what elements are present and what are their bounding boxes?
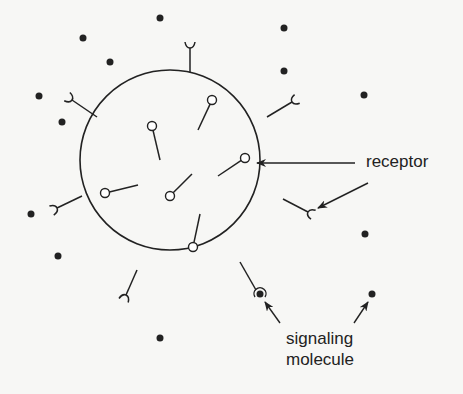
surface-receptor xyxy=(119,270,137,303)
arrow-signaling-bound-icon xyxy=(265,302,280,323)
signaling-molecule-icon xyxy=(281,25,288,32)
signaling-molecule-icon xyxy=(36,93,43,100)
signaling-molecule-icon xyxy=(55,253,62,260)
signaling-molecule-icon xyxy=(107,59,114,66)
internal-receptor xyxy=(218,154,250,177)
signaling-molecule-icon xyxy=(157,335,164,342)
internal-receptor xyxy=(148,122,161,161)
surface-receptor xyxy=(49,196,82,215)
internal-receptor xyxy=(166,174,193,201)
signaling-molecule-icon xyxy=(28,211,35,218)
receptor-head-icon xyxy=(208,96,217,105)
surface-receptor xyxy=(283,199,316,219)
receptor-cup-icon xyxy=(49,206,57,216)
signaling-molecule-icon xyxy=(362,231,369,238)
receptor-cup-icon xyxy=(307,210,315,220)
signaling-molecule-icon xyxy=(80,35,87,42)
signaling-molecule-label-line1: signaling xyxy=(286,329,353,349)
arrow-signaling-free-icon xyxy=(354,302,368,323)
surface-receptor xyxy=(64,92,97,117)
surface-receptors xyxy=(49,42,315,303)
arrow-receptor-surface-icon xyxy=(318,183,368,208)
receptor-head-icon xyxy=(148,122,157,131)
signaling-molecules xyxy=(28,15,376,342)
cell-membrane xyxy=(80,70,260,250)
receptor-cup-icon xyxy=(64,92,73,101)
signaling-molecule-icon xyxy=(281,68,288,75)
receptor-head-icon xyxy=(101,189,110,198)
internal-receptors xyxy=(101,96,250,252)
internal-receptor xyxy=(101,185,139,198)
receptor-cup-icon xyxy=(119,295,129,303)
receptor-cup-icon xyxy=(291,95,299,104)
bound-signaling-molecule-icon xyxy=(257,291,264,298)
signaling-molecule-icon xyxy=(59,119,66,126)
signaling-molecule-label-line2: molecule xyxy=(286,350,354,370)
surface-receptor xyxy=(185,42,195,72)
signaling-molecule-icon xyxy=(361,92,368,99)
annotation-arrows xyxy=(257,163,368,323)
receptor-head-icon xyxy=(166,192,175,201)
cell-signaling-diagram xyxy=(0,0,463,394)
signaling-molecule-icon xyxy=(157,15,164,22)
receptor-cup-icon xyxy=(185,42,195,48)
surface-receptor xyxy=(267,95,300,117)
receptor-label: receptor xyxy=(366,152,428,172)
receptor-head-icon xyxy=(189,243,198,252)
internal-receptor xyxy=(198,96,217,131)
bound-receptor xyxy=(240,262,266,298)
receptor-head-icon xyxy=(241,154,250,163)
signaling-molecule-icon xyxy=(369,291,376,298)
